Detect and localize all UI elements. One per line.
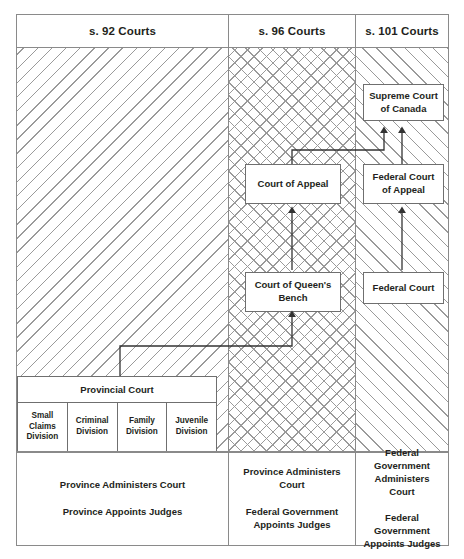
node-supreme-court-line1: Supreme Court [369, 90, 438, 103]
column-header-s101: s. 101 Courts [355, 14, 449, 48]
jurisdiction-footer: Province Administers Court Province Appo… [16, 452, 449, 546]
node-provincial-court[interactable]: Provincial Court Small Claims Division C… [17, 376, 217, 452]
division-juvenile-line2: Division [175, 427, 208, 438]
node-court-of-appeal-label: Court of Appeal [258, 178, 329, 191]
division-family[interactable]: Family Division [118, 403, 168, 451]
node-supreme-court-of-canada[interactable]: Supreme Court of Canada [363, 84, 444, 121]
footer-s101-line2b: Appoints Judges [362, 538, 442, 551]
division-criminal-line2: Division [76, 427, 109, 438]
column-header-s96-label: s. 96 Courts [258, 25, 325, 37]
footer-s96-line2: Federal Government Appoints Judges [246, 506, 338, 532]
footer-s101-line2: Federal Government Appoints Judges [362, 512, 442, 550]
footer-s96-line2b: Appoints Judges [246, 519, 338, 532]
footer-s92-line1: Province Administers Court [60, 479, 185, 492]
node-court-of-queens-bench[interactable]: Court of Queen's Bench [245, 272, 341, 312]
column-header-s101-label: s. 101 Courts [365, 25, 439, 37]
footer-s101: Federal Government Administers Court Fed… [355, 452, 449, 546]
footer-s101-line2a: Federal Government [362, 512, 442, 538]
node-federal-court-label: Federal Court [373, 282, 435, 295]
provincial-court-title: Provincial Court [18, 377, 216, 403]
provincial-court-label: Provincial Court [80, 384, 153, 395]
footer-s101-line1: Federal Government Administers Court [362, 447, 442, 498]
division-criminal[interactable]: Criminal Division [68, 403, 118, 451]
footer-s96-line2a: Federal Government [246, 506, 338, 519]
column-s92: Provincial Court Small Claims Division C… [16, 48, 228, 452]
division-small-claims-line1: Small [26, 411, 58, 422]
column-header-s92-label: s. 92 Courts [89, 25, 156, 37]
footer-s101-line1b: Administers Court [362, 473, 442, 499]
node-federal-court-appeal-line2: of Appeal [373, 184, 435, 197]
column-header-s96: s. 96 Courts [228, 14, 355, 48]
node-queens-bench-line2: Bench [255, 292, 332, 305]
footer-s92-line2: Province Appoints Judges [63, 506, 182, 519]
division-small-claims[interactable]: Small Claims Division [18, 403, 68, 451]
division-juvenile-line1: Juvenile [175, 416, 208, 427]
node-federal-court-of-appeal[interactable]: Federal Court of Appeal [363, 164, 444, 204]
node-queens-bench-line1: Court of Queen's [255, 279, 332, 292]
division-juvenile[interactable]: Juvenile Division [167, 403, 216, 451]
division-small-claims-line3: Division [26, 432, 58, 443]
provincial-court-divisions: Small Claims Division Criminal Division [18, 403, 216, 451]
division-family-line2: Division [126, 427, 158, 438]
division-small-claims-line2: Claims [26, 422, 58, 433]
footer-s101-line1a: Federal Government [362, 447, 442, 473]
column-s101: Supreme Court of Canada Federal Court of… [355, 48, 449, 452]
node-court-of-appeal[interactable]: Court of Appeal [245, 164, 341, 204]
court-system-diagram: s. 92 Courts s. 96 Courts s. 101 Courts … [16, 14, 449, 546]
column-headers: s. 92 Courts s. 96 Courts s. 101 Courts [16, 14, 449, 48]
division-family-line1: Family [126, 416, 158, 427]
node-federal-court-appeal-line1: Federal Court [373, 171, 435, 184]
node-federal-court[interactable]: Federal Court [363, 272, 444, 304]
footer-s96: Province Administers Court Federal Gover… [228, 452, 355, 546]
footer-s92: Province Administers Court Province Appo… [16, 452, 228, 546]
column-s96: Court of Appeal Court of Queen's Bench [228, 48, 355, 452]
column-header-s92: s. 92 Courts [16, 14, 228, 48]
diagram-body: Provincial Court Small Claims Division C… [16, 48, 449, 452]
division-criminal-line1: Criminal [76, 416, 109, 427]
node-supreme-court-line2: of Canada [369, 103, 438, 116]
footer-s96-line1: Province Administers Court [235, 466, 349, 492]
